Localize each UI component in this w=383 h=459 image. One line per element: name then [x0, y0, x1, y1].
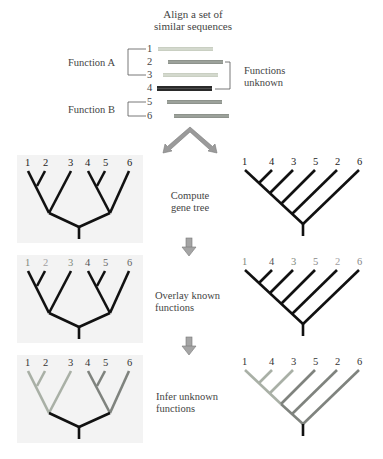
right-gene-tree-1 — [245, 170, 359, 236]
down-arrow-icon-2 — [182, 337, 196, 355]
right-tree-1-leaf-5: 2 — [335, 156, 340, 168]
sequence-bar-6 — [174, 114, 229, 118]
left-tree-1-leaf-3: 3 — [68, 157, 73, 169]
left-tree-1-leaf-6: 6 — [127, 157, 132, 169]
left-tree-2-leaf-4: 4 — [85, 257, 90, 269]
split-arrow-icon — [163, 127, 217, 153]
right-gene-tree-2 — [245, 270, 359, 336]
down-arrow-icon-1 — [182, 238, 196, 256]
function-b-bracket — [128, 102, 146, 116]
left-tree-3-leaf-6: 6 — [127, 357, 132, 369]
left-tree-2-leaf-6: 6 — [127, 257, 132, 269]
sequence-bar-4 — [157, 86, 212, 91]
left-tree-3-leaf-2: 2 — [43, 357, 48, 369]
right-tree-1-leaf-4: 5 — [313, 156, 318, 168]
left-tree-1-leaf-5: 5 — [103, 157, 108, 169]
right-gene-tree-3 — [245, 370, 359, 436]
sequence-bar-2 — [168, 60, 223, 64]
sequence-bar-5 — [167, 100, 222, 104]
step-infer-line-2: functions — [156, 403, 195, 415]
left-tree-3-leaf-1: 1 — [25, 357, 30, 369]
left-tree-1-leaf-2: 2 — [43, 157, 48, 169]
right-tree-2-leaf-3: 3 — [291, 256, 296, 268]
step-overlay-line-1: Overlay known — [155, 290, 220, 302]
step-compute-line-2: gene tree — [150, 202, 230, 214]
right-tree-1-leaf-3: 3 — [291, 156, 296, 168]
left-tree-3-leaf-4: 4 — [85, 357, 90, 369]
right-tree-2-leaf-5: 2 — [335, 256, 340, 268]
sequence-bar-1 — [158, 47, 213, 51]
right-tree-2-leaf-2: 4 — [269, 256, 274, 268]
right-tree-3-leaf-5: 2 — [335, 356, 340, 368]
left-tree-3-leaf-5: 5 — [103, 357, 108, 369]
left-tree-1-leaf-4: 4 — [85, 157, 90, 169]
left-tree-2-leaf-1: 1 — [25, 257, 30, 269]
right-tree-1-leaf-2: 4 — [269, 156, 274, 168]
left-gene-tree-3 — [28, 371, 129, 439]
right-tree-1-leaf-1: 1 — [242, 156, 247, 168]
right-tree-3-leaf-3: 3 — [291, 356, 296, 368]
left-tree-3-leaf-3: 3 — [68, 357, 73, 369]
right-tree-3-leaf-1: 1 — [242, 356, 247, 368]
right-tree-3-leaf-2: 4 — [269, 356, 274, 368]
right-tree-2-leaf-1: 1 — [242, 256, 247, 268]
right-tree-2-leaf-6: 6 — [357, 256, 362, 268]
left-gene-tree-1 — [28, 171, 129, 239]
left-tree-1-leaf-1: 1 — [25, 157, 30, 169]
right-tree-1-leaf-6: 6 — [357, 156, 362, 168]
left-tree-2-leaf-3: 3 — [68, 257, 73, 269]
right-tree-3-leaf-6: 6 — [357, 356, 362, 368]
sequence-bar-3 — [163, 73, 218, 77]
alignment-bars — [157, 47, 229, 118]
left-tree-2-leaf-5: 5 — [103, 257, 108, 269]
step-compute-line-1: Compute — [150, 190, 230, 202]
left-tree-2-leaf-2: 2 — [43, 257, 48, 269]
function-a-bracket — [128, 49, 146, 75]
right-tree-2-leaf-4: 5 — [313, 256, 318, 268]
right-tree-3-leaf-4: 5 — [313, 356, 318, 368]
step-infer-line-1: Infer unknown — [156, 391, 218, 403]
step-overlay-line-2: functions — [155, 302, 194, 314]
left-gene-tree-2 — [28, 271, 129, 339]
